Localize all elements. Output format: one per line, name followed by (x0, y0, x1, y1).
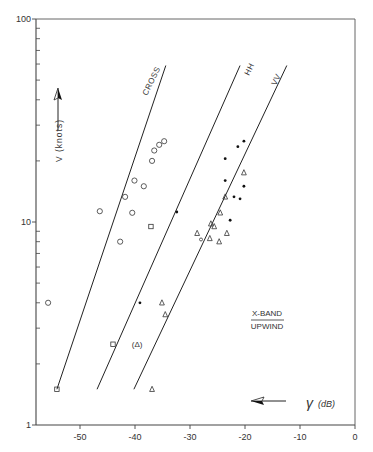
circle-marker (97, 209, 102, 214)
x-tick-label: 0 (352, 432, 357, 442)
y-tick-label: 1 (26, 420, 31, 430)
dot-marker (243, 140, 246, 143)
dot-marker (239, 197, 242, 200)
wind-label: UPWIND (251, 322, 284, 331)
dot-marker (224, 157, 227, 160)
scatter-chart: 110100 -50-40-30-20-100 (Δ) V (knots) γ … (0, 0, 373, 452)
x-tick-label: -20 (238, 432, 251, 442)
dot-marker (236, 145, 239, 148)
up-arrow-icon (54, 88, 58, 100)
x-tick-label: -50 (73, 432, 86, 442)
dot-marker (233, 195, 236, 198)
circle-marker (118, 239, 123, 244)
hh-line (97, 66, 240, 390)
x-tick-label: -10 (293, 432, 306, 442)
band-annotation: X-BAND UPWIND (251, 309, 284, 331)
triangle-marker (163, 312, 168, 317)
circle-marker (141, 184, 146, 189)
band-label: X-BAND (252, 309, 282, 318)
circle-marker (149, 158, 154, 163)
cross-line (57, 66, 166, 390)
plot-frame (36, 19, 355, 425)
y-axis-label-group: V (knots) (54, 88, 64, 162)
circle-marker (130, 210, 135, 215)
x-ticks: -50-40-30-20-100 (73, 425, 357, 442)
triangle-marker (242, 170, 247, 175)
triangle-marker (207, 235, 212, 240)
dot-marker (243, 185, 246, 188)
vv-line-label: VV (270, 72, 283, 87)
triangle-marker (195, 230, 200, 235)
y-axis-label: V (knots) (54, 119, 64, 162)
dot-marker (224, 179, 227, 182)
data-points: (Δ) (46, 139, 247, 392)
dot-marker (139, 301, 142, 304)
x-axis-label-group: γ (dB) (251, 395, 335, 411)
x-tick-label: -40 (128, 432, 141, 442)
gamma-symbol: γ (306, 395, 314, 411)
circle-marker (162, 139, 167, 144)
dot-marker (229, 219, 232, 222)
triangle-marker (150, 386, 155, 391)
bracketed-triangle-marker: (Δ) (132, 340, 143, 349)
hh-line-label: HH (243, 62, 257, 77)
circle-marker (157, 142, 162, 147)
square-marker (149, 224, 153, 228)
y-tick-label: 100 (16, 14, 31, 24)
up-arrow-icon-fill (58, 88, 62, 100)
triangle-marker (217, 239, 222, 244)
dot-marker (175, 211, 178, 214)
x-tick-label: -30 (183, 432, 196, 442)
triangle-marker (160, 300, 165, 305)
left-arrow-icon-fill (251, 401, 264, 405)
circle-marker (132, 178, 137, 183)
circle-marker (46, 300, 51, 305)
triangle-marker (224, 230, 229, 235)
square-marker (111, 342, 115, 346)
x-axis-unit: (dB) (318, 399, 335, 409)
small-circle-marker (200, 238, 203, 241)
fit-lines (57, 66, 287, 390)
circle-marker (123, 194, 128, 199)
circle-marker (152, 148, 157, 153)
y-tick-label: 10 (21, 217, 31, 227)
vv-line (134, 66, 287, 390)
cross-line-label: CROSS (141, 65, 163, 97)
left-arrow-icon (251, 397, 264, 401)
